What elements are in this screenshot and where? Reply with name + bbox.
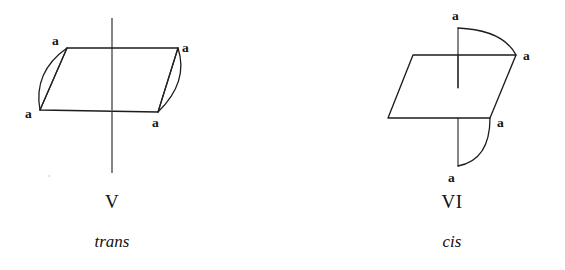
figure-vi-descriptor: cis [402,233,502,250]
figure-vi-top-bond [458,28,516,88]
figure-vi-bottom-bond [458,118,490,166]
figure-v-right-bond [158,48,181,112]
figure-vi-label-right-upper: a [523,48,530,63]
figure-v-ring-plane [40,48,178,112]
figure-vi-caption: VI cis [402,192,502,250]
figure-v-descriptor: trans [62,233,162,250]
figure-vi-ring-plane [388,55,516,118]
figure-v-label-top-right: a [182,40,189,55]
figure-v-caption: V trans [62,192,162,250]
figure-v-roman-numeral: V [62,192,162,211]
figure-vi-roman-numeral: VI [402,192,502,211]
figure-v-left-bond [39,48,67,110]
figure-v-label-bottom-left: a [25,106,32,121]
scan-speck [48,175,50,177]
figure-vi-label-top: a [452,8,459,23]
figure-vi-label-bottom: a [448,170,455,185]
figure-v-label-bottom-right: a [152,115,159,130]
figure-v-label-top-left: a [52,33,59,48]
figure-vi-label-right-lower: a [497,115,504,130]
